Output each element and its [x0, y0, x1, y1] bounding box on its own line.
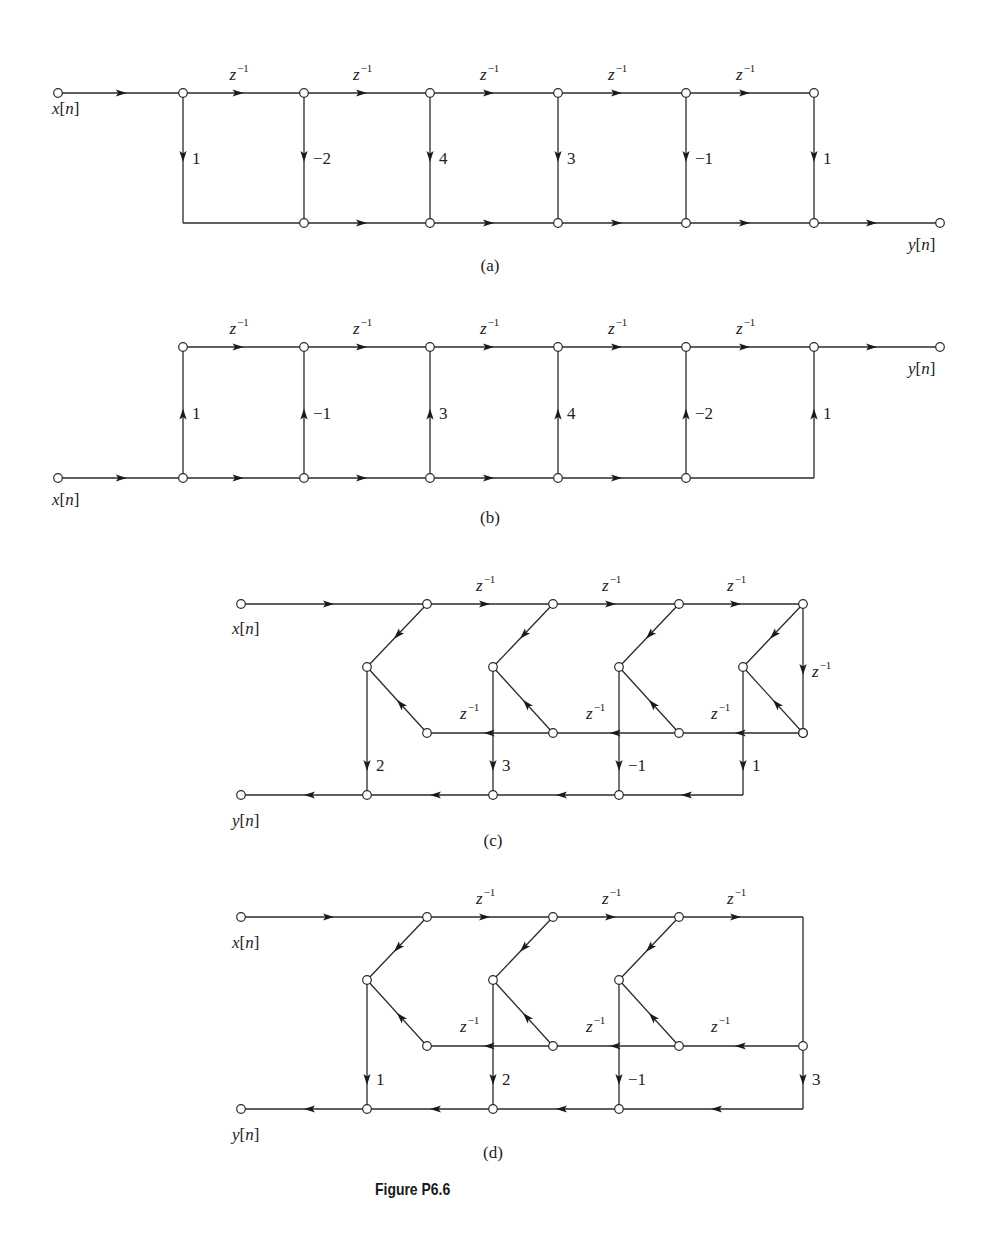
- delay-exponent: −1: [610, 573, 622, 585]
- graph-node: [682, 89, 691, 98]
- graph-node: [363, 663, 372, 672]
- tap-coefficient: 3: [812, 1070, 821, 1089]
- graph-node: [237, 1105, 246, 1114]
- graph-node: [489, 791, 498, 800]
- delay-exponent: −1: [616, 316, 628, 328]
- graph-node: [675, 1042, 684, 1051]
- graph-node: [799, 600, 808, 609]
- subfigure-label: (d): [483, 1143, 503, 1162]
- graph-node: [300, 89, 309, 98]
- graph-node: [423, 729, 432, 738]
- graph-node: [423, 1042, 432, 1051]
- graph-node: [237, 791, 246, 800]
- graph-node: [615, 1105, 624, 1114]
- graph-node: [489, 976, 498, 985]
- tap-coefficient: −1: [628, 756, 646, 775]
- delay-exponent: −1: [488, 316, 500, 328]
- graph-node: [300, 219, 309, 228]
- delay-label: z−1: [726, 886, 746, 908]
- input-label: x[n]: [231, 619, 259, 638]
- graph-node: [237, 913, 246, 922]
- graph-node: [363, 976, 372, 985]
- tap-coefficient: 1: [823, 149, 832, 168]
- graph-node: [300, 343, 309, 352]
- graph-node: [936, 343, 945, 352]
- delay-label: z−1: [726, 573, 746, 595]
- delay-exponent: −1: [484, 573, 496, 585]
- figure-canvas: x[n]z−1z−1z−1z−1z−11−243−11y[n](a) x[n]z…: [0, 0, 1002, 1234]
- subfigure-label: (b): [480, 508, 500, 527]
- tap-coefficient: 1: [752, 756, 761, 775]
- tap-coefficient: 4: [439, 149, 448, 168]
- signal-flow-graph-d: x[n]z−1z−1z−1z−1z−1z−112−13y[n](d): [230, 886, 821, 1162]
- graph-node: [179, 343, 188, 352]
- graph-node: [554, 343, 563, 352]
- graph-node: [799, 1042, 808, 1051]
- delay-label: z−1: [601, 886, 621, 908]
- delay-exponent: −1: [735, 573, 747, 585]
- graph-node: [554, 474, 563, 483]
- graph-node: [810, 343, 819, 352]
- delay-label: z−1: [459, 701, 479, 723]
- tap-coefficient: 3: [502, 756, 511, 775]
- tap-coefficient: 4: [567, 404, 576, 423]
- delay-exponent: −1: [719, 1014, 731, 1026]
- tap-coefficient: −1: [628, 1070, 646, 1089]
- delay-exponent: −1: [468, 701, 480, 713]
- tap-coefficient: 1: [376, 1070, 385, 1089]
- output-label: y[n]: [230, 811, 259, 830]
- graph-node: [426, 343, 435, 352]
- graph-node: [237, 600, 246, 609]
- tap-coefficient: 1: [192, 404, 201, 423]
- graph-node: [549, 913, 558, 922]
- graph-node: [810, 89, 819, 98]
- tap-coefficient: 1: [823, 404, 832, 423]
- output-label: y[n]: [906, 235, 935, 254]
- delay-exponent: −1: [237, 62, 249, 74]
- signal-flow-graph-b: x[n]z−1z−1z−1z−1z−11−134−21y[n](b): [51, 316, 944, 527]
- tap-coefficient: −2: [695, 404, 713, 423]
- delay-label: z−1: [229, 316, 249, 338]
- delay-exponent: −1: [484, 886, 496, 898]
- graph-node: [489, 1105, 498, 1114]
- delay-label: z−1: [585, 1014, 605, 1036]
- delay-exponent: −1: [610, 886, 622, 898]
- delay-label: z−1: [229, 62, 249, 84]
- subfigure-label: (a): [481, 256, 500, 275]
- graph-node: [363, 1105, 372, 1114]
- delay-exponent: −1: [361, 62, 373, 74]
- delay-exponent: −1: [237, 316, 249, 328]
- graph-node: [179, 474, 188, 483]
- tap-coefficient: −2: [313, 149, 331, 168]
- delay-label: z−1: [475, 573, 495, 595]
- tap-coefficient: 3: [567, 149, 576, 168]
- graph-node: [810, 219, 819, 228]
- input-label: x[n]: [231, 933, 259, 952]
- delay-exponent: −1: [594, 1014, 606, 1026]
- delay-exponent: −1: [468, 1014, 480, 1026]
- delay-exponent: −1: [488, 62, 500, 74]
- graph-node: [426, 474, 435, 483]
- output-label: y[n]: [906, 359, 935, 378]
- graph-node: [489, 663, 498, 672]
- tap-coefficient: −1: [313, 404, 331, 423]
- graph-node: [363, 791, 372, 800]
- graph-node: [549, 600, 558, 609]
- delay-exponent: −1: [744, 316, 756, 328]
- delay-label: z−1: [710, 1014, 730, 1036]
- delay-label: z−1: [607, 62, 627, 84]
- graph-node: [675, 600, 684, 609]
- delay-exponent: −1: [616, 62, 628, 74]
- delay-label: z−1: [585, 701, 605, 723]
- signal-flow-graph-c: x[n]z−1z−1z−1z−1z−1z−1z−123−11y[n](c): [230, 573, 831, 850]
- subfigure-label: (c): [484, 831, 503, 850]
- delay-exponent: −1: [361, 316, 373, 328]
- graph-node: [675, 729, 684, 738]
- tap-coefficient: 3: [439, 404, 448, 423]
- graph-node: [936, 219, 945, 228]
- graph-node: [549, 729, 558, 738]
- graph-node: [423, 600, 432, 609]
- graph-node: [682, 343, 691, 352]
- output-label: y[n]: [230, 1125, 259, 1144]
- graph-node: [739, 663, 748, 672]
